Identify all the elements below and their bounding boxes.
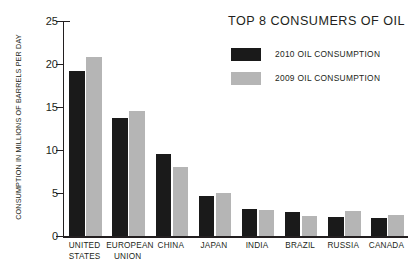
bar — [156, 154, 172, 236]
bar — [216, 193, 232, 236]
x-axis-label: EUROPEANUNION — [106, 240, 149, 262]
x-axis-labels: UNITEDSTATESEUROPEANUNIONCHINAJAPANINDIA… — [63, 240, 408, 274]
x-axis-label-line1: RUSSIA — [327, 241, 359, 250]
bar-group — [156, 21, 189, 236]
legend-swatch-2010 — [231, 48, 261, 61]
y-tick-label: 0 — [52, 229, 58, 243]
y-tick-label: 10 — [46, 143, 58, 157]
x-axis-label: INDIA — [236, 240, 279, 251]
x-axis-label-line1: INDIA — [246, 241, 269, 250]
y-axis-title: CONSUMPTION IN MILLIONS OF BARRELS PER D… — [12, 8, 26, 246]
bar — [345, 211, 361, 236]
bar — [388, 215, 404, 237]
bar — [371, 218, 387, 236]
bar — [112, 118, 128, 236]
bar — [259, 210, 275, 236]
bar-chart: CONSUMPTION IN MILLIONS OF BARRELS PER D… — [0, 0, 419, 278]
bar — [328, 217, 344, 236]
x-axis-label-line2: STATES — [63, 251, 106, 262]
bar — [69, 71, 85, 236]
x-axis-label: BRAZIL — [279, 240, 322, 251]
x-axis-label: CHINA — [149, 240, 192, 251]
chart-title: TOP 8 CONSUMERS OF OIL — [228, 14, 405, 28]
x-axis-label-line1: CANADA — [369, 241, 404, 250]
x-axis-label: JAPAN — [192, 240, 235, 251]
bar — [129, 111, 145, 236]
y-tick-label: 25 — [46, 14, 58, 28]
x-axis-label-line1: CHINA — [158, 241, 184, 250]
x-axis-label-line1: BRAZIL — [285, 241, 315, 250]
bar — [302, 216, 318, 236]
legend-swatch-2009 — [231, 72, 261, 85]
bar — [199, 196, 215, 236]
legend-label-2009: 2009 OIL CONSUMPTION — [275, 71, 380, 86]
x-axis-label-line1: UNITED — [69, 241, 101, 250]
legend-label-2010: 2010 OIL CONSUMPTION — [275, 47, 380, 62]
y-tick-label: 5 — [52, 186, 58, 200]
y-tick-label: 20 — [46, 57, 58, 71]
bar — [86, 57, 102, 236]
x-axis-label: CANADA — [365, 240, 408, 251]
y-tick-label: 15 — [46, 100, 58, 114]
x-axis-line — [63, 236, 408, 238]
x-axis-label: UNITEDSTATES — [63, 240, 106, 262]
x-axis-label-line1: JAPAN — [201, 241, 228, 250]
bar — [285, 212, 301, 236]
x-axis-label-line2: UNION — [106, 251, 149, 262]
bar-group — [112, 21, 145, 236]
bar-group — [69, 21, 102, 236]
x-axis-label-line1: EUROPEAN — [106, 241, 154, 250]
bar-group — [199, 21, 232, 236]
x-axis-label: RUSSIA — [322, 240, 365, 251]
bar — [173, 167, 189, 236]
bar — [242, 209, 258, 236]
